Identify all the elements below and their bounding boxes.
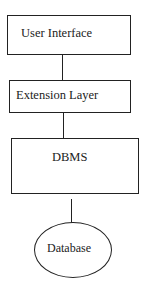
connector-dbms-db <box>71 199 72 223</box>
extension-layer-label: Extension Layer <box>16 88 98 103</box>
database-label: Database <box>47 241 91 256</box>
user-interface-node: User Interface <box>7 15 131 55</box>
connector-ext-dbms <box>63 113 64 138</box>
user-interface-label: User Interface <box>21 26 92 41</box>
connector-ui-ext <box>62 55 63 80</box>
database-node: Database <box>34 222 112 278</box>
extension-layer-node: Extension Layer <box>9 80 131 113</box>
dbms-node: DBMS <box>11 138 139 194</box>
dbms-label: DBMS <box>52 150 87 165</box>
